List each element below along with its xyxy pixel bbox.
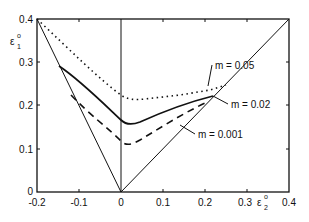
annotation-m-005: m = 0.05 <box>215 60 255 71</box>
annotation-m-0001: m = 0.001 <box>198 129 243 140</box>
annotation-m-002: m = 0.02 <box>231 99 271 110</box>
x-tick-label: 0.3 <box>238 197 252 208</box>
x-tick-label: 0.1 <box>156 197 170 208</box>
chart: 0.4 0.2 0.1 0 0.3 -0.2 -0.1 0 0.1 0.2 0.… <box>0 0 309 222</box>
y-tick-label: 0.3 <box>19 57 33 68</box>
annotation-leader <box>213 96 228 104</box>
y-tick-label: 0.2 <box>19 100 33 111</box>
svg-text:o: o <box>264 193 268 200</box>
y-tick-label: 0.1 <box>19 144 33 155</box>
x-tick-label: 0.4 <box>282 197 296 208</box>
boundary-left-line <box>37 19 121 192</box>
y-tick-label: 0.4 <box>19 14 33 25</box>
svg-text:ε: ε <box>257 197 262 208</box>
series-m-002 <box>59 66 213 124</box>
series-m-005 <box>37 19 226 100</box>
series-m-0001 <box>71 95 205 144</box>
svg-text:ε: ε <box>10 36 15 47</box>
annotation-leader <box>208 65 212 86</box>
x-tick-label: 0.2 <box>198 197 212 208</box>
y-axis-label: ε 1 o <box>10 32 21 50</box>
svg-text:1: 1 <box>17 43 21 50</box>
x-ticks <box>79 19 247 192</box>
svg-text:o: o <box>17 32 21 39</box>
x-tick-label: 0 <box>118 197 124 208</box>
y-tick-label: 0 <box>27 186 33 197</box>
x-axis-label: ε 2 o <box>257 193 268 211</box>
svg-text:2: 2 <box>264 204 268 211</box>
x-tick-label: -0.1 <box>70 197 88 208</box>
x-tick-label: -0.2 <box>28 197 46 208</box>
